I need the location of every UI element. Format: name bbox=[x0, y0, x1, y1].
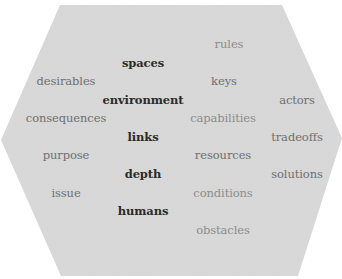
word-solutions: solutions bbox=[271, 169, 323, 181]
word-humans: humans bbox=[118, 206, 169, 218]
word-keys: keys bbox=[211, 76, 237, 88]
word-spaces: spaces bbox=[122, 58, 164, 70]
word-tradeoffs: tradeoffs bbox=[271, 132, 323, 144]
word-resources: resources bbox=[195, 150, 251, 162]
word-capabilities: capabilities bbox=[190, 113, 256, 125]
word-depth: depth bbox=[125, 169, 162, 181]
word-actors: actors bbox=[279, 95, 315, 107]
word-environment: environment bbox=[103, 95, 184, 107]
word-issue: issue bbox=[51, 188, 80, 200]
word-desirables: desirables bbox=[37, 76, 96, 88]
word-obstacles: obstacles bbox=[196, 225, 250, 237]
word-conditions: conditions bbox=[193, 188, 252, 200]
word-purpose: purpose bbox=[43, 150, 90, 162]
word-consequences: consequences bbox=[26, 113, 106, 125]
word-links: links bbox=[127, 132, 158, 144]
word-rules: rules bbox=[215, 39, 244, 51]
